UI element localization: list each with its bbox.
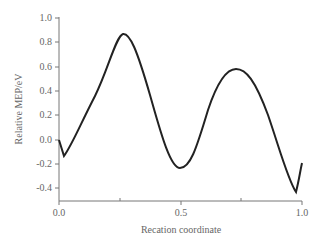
svg-text:-0.4: -0.4 xyxy=(36,182,52,193)
svg-text:0.0: 0.0 xyxy=(40,134,53,145)
x-axis xyxy=(59,198,302,205)
chart: 1.0 0.8 0.6 0.4 0.2 0.0 -0.2 -0.4 0.0 0.… xyxy=(0,0,327,245)
svg-text:0.8: 0.8 xyxy=(40,36,53,47)
svg-text:1.0: 1.0 xyxy=(296,207,309,218)
x-tick-labels: 0.0 0.5 1.0 xyxy=(53,207,309,218)
svg-text:0.4: 0.4 xyxy=(40,85,53,96)
svg-text:0.2: 0.2 xyxy=(40,109,53,120)
y-axis-label: Relative MEP/eV xyxy=(13,73,24,145)
svg-text:-0.2: -0.2 xyxy=(36,158,52,169)
y-tick-labels: 1.0 0.8 0.6 0.4 0.2 0.0 -0.2 -0.4 xyxy=(36,12,52,193)
svg-text:0.5: 0.5 xyxy=(175,207,188,218)
svg-text:0.0: 0.0 xyxy=(53,207,66,218)
y-axis xyxy=(55,17,59,201)
x-axis-label: Recation coordinate xyxy=(141,224,222,235)
svg-text:1.0: 1.0 xyxy=(40,12,53,23)
svg-text:0.6: 0.6 xyxy=(40,61,53,72)
mep-curve xyxy=(59,34,302,192)
